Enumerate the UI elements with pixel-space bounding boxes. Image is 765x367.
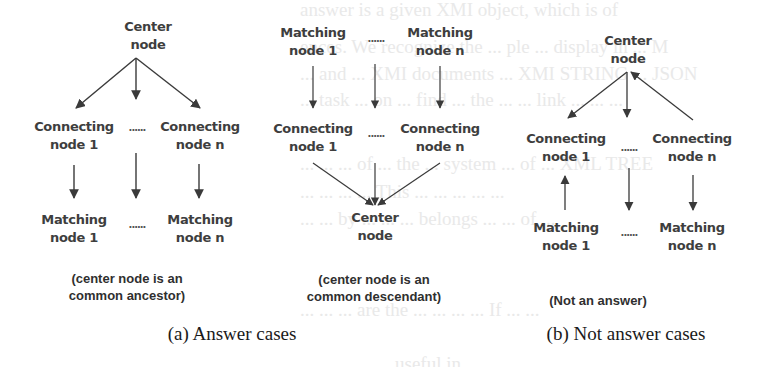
ellipsis: ...... [621,227,638,238]
descendant-note: (center node is an common descendant) [307,271,441,305]
matching-node-1-label: Matching node 1 [280,24,346,60]
arrow-connecting-1-to-center [313,163,373,205]
caption-a: (a) Answer cases [168,323,297,345]
ellipsis: ...... [129,219,146,230]
center-node-label: Center node [124,18,171,54]
center-node-label: Center node [604,32,651,68]
matching-node-1-label: Matching node 1 [41,211,107,247]
connecting-node-1-label: Connecting node 1 [526,130,606,166]
ellipsis: ...... [368,128,385,139]
arrow-center-to-connecting-n [136,58,200,108]
ellipsis: ...... [129,122,146,133]
matching-node-n-label: Matching node n [407,24,473,60]
matching-node-1-label: Matching node 1 [533,219,599,255]
arrow-center-to-connecting-1 [568,72,627,118]
not-answer-note: (Not an answer) [549,292,647,309]
connecting-node-n-label: Connecting node n [160,118,240,154]
caption-b: (b) Not answer cases [547,323,706,345]
connecting-node-n-label: Connecting node n [652,130,732,166]
matching-node-n-label: Matching node n [659,219,725,255]
matching-node-n-label: Matching node n [167,211,233,247]
center-node-label: Center node [351,209,398,245]
arrow-center-to-connecting-1 [76,58,136,108]
arrow-connecting-n-to-center [378,163,440,205]
ellipsis: ...... [368,33,385,44]
connecting-node-n-label: Connecting node n [400,120,480,156]
connecting-node-1-label: Connecting node 1 [273,120,353,156]
ellipsis: ...... [621,142,638,153]
ancestor-note: (center node is an common ancestor) [69,270,185,304]
arrow-connecting-n-to-center [631,72,693,120]
connecting-node-1-label: Connecting node 1 [34,118,114,154]
